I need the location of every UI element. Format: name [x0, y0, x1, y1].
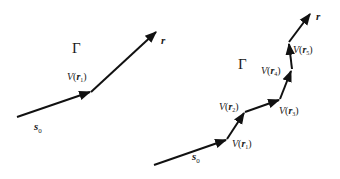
- left-region-gamma: Γ: [72, 40, 81, 56]
- right-vertex-label-v1: V(r1): [232, 138, 252, 150]
- left-segment-v1-to-r: [91, 32, 156, 92]
- right-segment-v3-to-v4: [280, 71, 291, 99]
- left-end-label-r: r: [161, 34, 166, 46]
- right-segment-v5-to-r: [289, 14, 310, 42]
- left-diagram: Γ V(r1) r s0: [17, 32, 166, 135]
- right-diagram: Γ V(r1) V(r2) V(r3) V(r4) V(r5) r s0: [154, 10, 321, 165]
- left-segment-s0-to-v1: [17, 92, 90, 117]
- right-segment-v4-to-v5: [289, 44, 292, 69]
- ray-path-diagram: Γ V(r1) r s0 Γ V(r1) V(r2) V(r3) V(r4): [0, 0, 340, 179]
- right-region-gamma: Γ: [238, 56, 247, 72]
- right-vertex-label-v2: V(r2): [219, 101, 239, 113]
- right-segment-v1-to-v2: [227, 113, 244, 139]
- left-start-label-s0: s0: [33, 120, 42, 135]
- right-vertex-label-v3: V(r3): [279, 105, 299, 117]
- right-end-label-r: r: [316, 10, 321, 22]
- right-segment-s0-to-v1: [154, 140, 226, 165]
- left-vertex-label-v1: V(r1): [67, 71, 87, 83]
- right-vertex-label-v4: V(r4): [261, 65, 281, 77]
- right-segment-v2-to-v3: [245, 100, 279, 112]
- right-start-label-s0: s0: [191, 150, 200, 165]
- right-vertex-label-v5: V(r5): [293, 44, 313, 56]
